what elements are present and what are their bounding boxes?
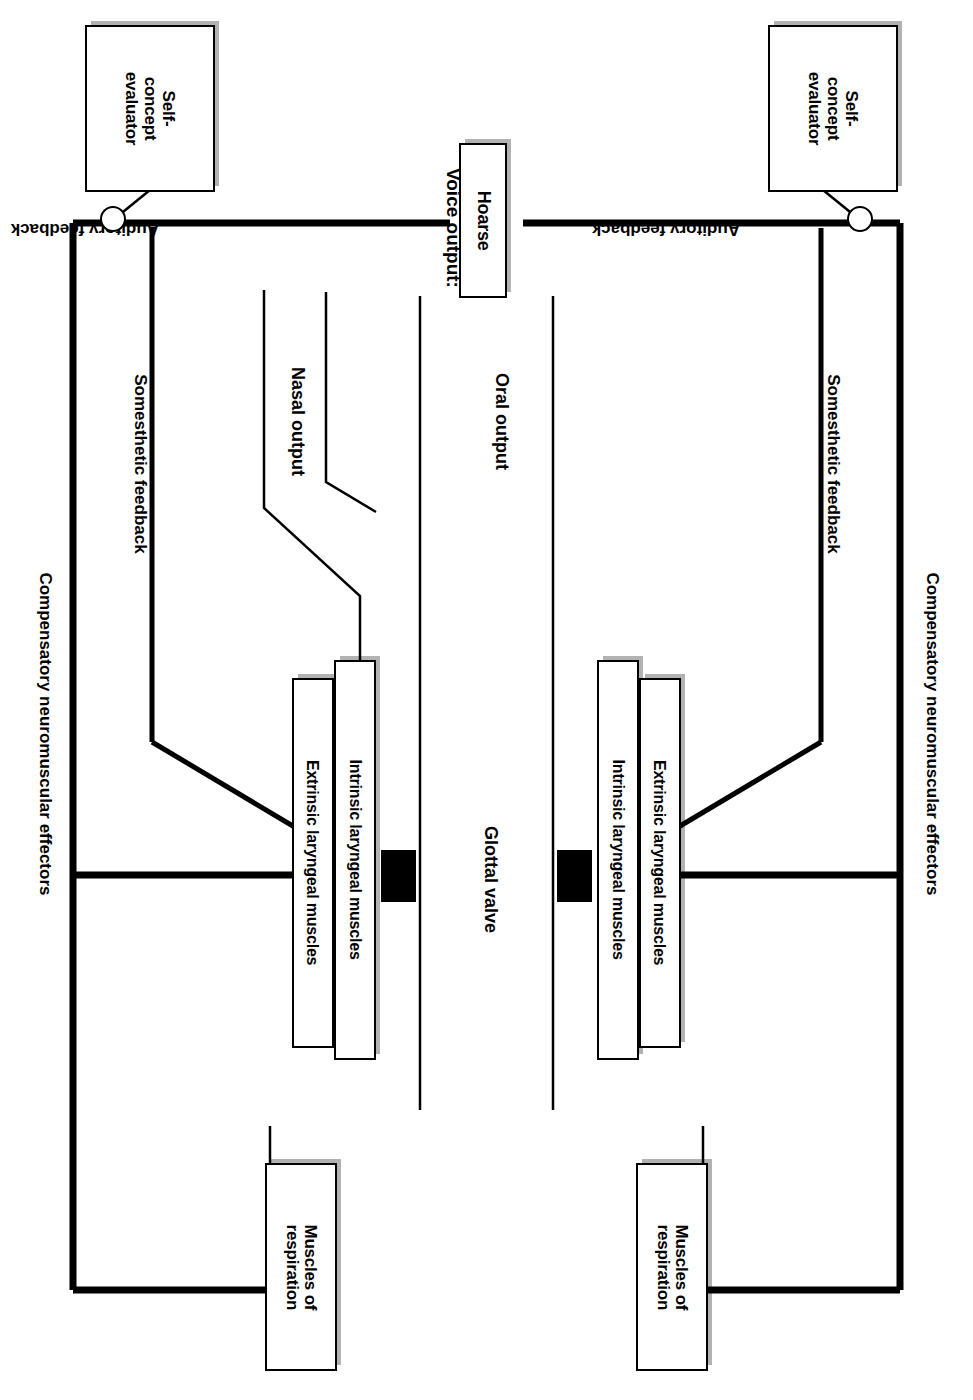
node-intrinsic-laryngeal-muscles-left[interactable]: Intrinsic laryngeal muscles	[334, 660, 376, 1060]
junction-circle-right	[847, 206, 873, 232]
label-somesthetic-feedback-left: Somesthetic feedback	[131, 364, 149, 564]
label-compensatory-effectors-right: Compensatory neuromuscular effectors	[923, 554, 941, 914]
node-voice-output-hoarse[interactable]: Hoarse	[459, 143, 507, 298]
node-self-concept-evaluator-left[interactable]: Self- concept evaluator	[85, 25, 215, 192]
node-self-concept-evaluator-right[interactable]: Self- concept evaluator	[768, 25, 898, 192]
label-glottal-valve: Glottal valve	[482, 814, 501, 944]
diagram-canvas: Self- concept evaluator Self- concept ev…	[0, 0, 973, 1400]
label-auditory-feedback-left: Auditory feedback	[11, 220, 159, 238]
node-muscles-of-respiration-left[interactable]: Muscles of respiration	[265, 1163, 337, 1371]
label-nasal-output: Nasal output	[289, 356, 308, 486]
node-label-self-concept-evaluator-left: Self- concept evaluator	[122, 72, 177, 146]
node-label-extrinsic-laryngeal-right: Extrinsic laryngeal muscles	[651, 760, 668, 965]
node-label-hoarse: Hoarse	[473, 191, 492, 251]
node-label-extrinsic-laryngeal-left: Extrinsic laryngeal muscles	[304, 760, 321, 965]
glottal-valve-flap-left	[381, 850, 416, 902]
label-voice-output-caption: Voice output:	[443, 168, 463, 288]
node-extrinsic-laryngeal-muscles-right[interactable]: Extrinsic laryngeal muscles	[639, 678, 681, 1048]
node-extrinsic-laryngeal-muscles-left[interactable]: Extrinsic laryngeal muscles	[292, 678, 334, 1048]
node-intrinsic-laryngeal-muscles-right[interactable]: Intrinsic laryngeal muscles	[597, 660, 639, 1060]
glottal-valve-flap-right	[557, 850, 592, 902]
node-label-self-concept-evaluator-right: Self- concept evaluator	[805, 72, 860, 146]
label-somesthetic-feedback-right: Somesthetic feedback	[824, 364, 842, 564]
node-label-intrinsic-laryngeal-right: Intrinsic laryngeal muscles	[609, 760, 626, 960]
label-oral-output: Oral output	[493, 356, 512, 486]
node-muscles-of-respiration-right[interactable]: Muscles of respiration	[636, 1163, 708, 1371]
node-label-muscles-respiration-right: Muscles of respiration	[654, 1224, 691, 1310]
label-compensatory-effectors-left: Compensatory neuromuscular effectors	[36, 554, 54, 914]
junction-circle-left	[100, 206, 126, 232]
node-label-intrinsic-laryngeal-left: Intrinsic laryngeal muscles	[346, 760, 363, 960]
node-label-muscles-respiration-left: Muscles of respiration	[283, 1224, 320, 1310]
label-auditory-feedback-right: Auditory feedback	[592, 220, 740, 238]
